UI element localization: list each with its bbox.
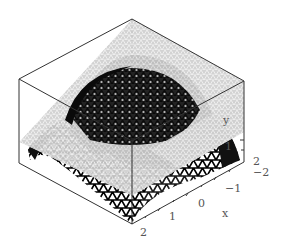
x-tick-neg1: −1 (225, 183, 241, 194)
x-tick-0: 0 (198, 198, 205, 209)
x-tick-1: 1 (169, 211, 176, 222)
y-axis-label: y (223, 115, 229, 126)
x-axis-label: x (222, 208, 228, 219)
y-tick-1: 1 (225, 141, 232, 152)
surface-plot (0, 0, 284, 244)
x-tick-2: 2 (140, 227, 147, 238)
x-tick-neg2: −2 (253, 167, 269, 178)
y-axis-ticks (240, 140, 244, 150)
